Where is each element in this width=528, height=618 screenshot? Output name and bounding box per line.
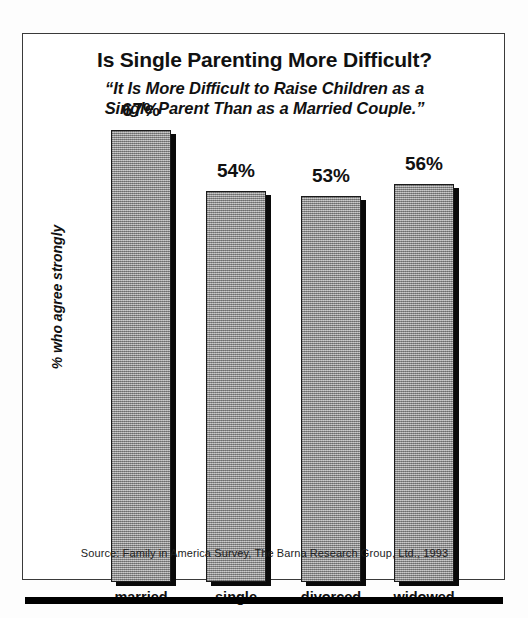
bar-value-married: 67% [122, 99, 160, 121]
chart-figure: Is Single Parenting More Difficult? “It … [0, 0, 528, 618]
bar-divorced [301, 196, 361, 582]
chart-source-note: Source: Family in America Survey, The Ba… [23, 547, 506, 559]
bar-group-married: 67% married [111, 99, 171, 581]
bar-value-divorced: 53% [312, 165, 350, 187]
bar-group-widowed: 56% widowed [394, 99, 454, 581]
bar-widowed [394, 184, 454, 582]
bottom-divider-rule [25, 597, 503, 604]
bar-value-single: 54% [217, 160, 255, 182]
bar-group-divorced: 53% divorced [301, 99, 361, 581]
chart-frame: Is Single Parenting More Difficult? “It … [22, 33, 505, 580]
bar-value-widowed: 56% [405, 153, 443, 175]
bar-married [111, 130, 171, 582]
plot-area: % who agree strongly 67% married 54% sin… [23, 34, 506, 581]
y-axis-label: % who agree strongly [49, 217, 65, 377]
bar-group-single: 54% single [206, 99, 266, 581]
bar-single [206, 191, 266, 582]
